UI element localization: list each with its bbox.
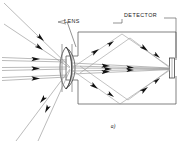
- optical-diagram: LENS DETECTOR a): [0, 0, 194, 144]
- detector-plate: [170, 58, 175, 78]
- lens-label: LENS: [64, 18, 80, 24]
- incoming-parallel-ray-arrows: [24, 59, 40, 79]
- oblique-lower-left-arrows: [40, 88, 54, 113]
- lens-leader-line: [58, 20, 76, 47]
- oblique-rays-lower-left: [16, 69, 70, 141]
- incoming-parallel-rays: [2, 58, 67, 81]
- figure-canvas: LENS DETECTOR a): [0, 0, 194, 144]
- figure-caption: a): [111, 123, 116, 130]
- stray-upper-arrows: [86, 41, 160, 58]
- detector-label: DETECTOR: [124, 12, 157, 18]
- detector-leader-line: [113, 18, 176, 58]
